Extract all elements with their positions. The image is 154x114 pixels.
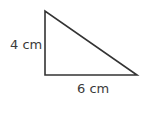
triangle-shape [0, 0, 154, 114]
triangle-diagram: 4 cm 6 cm [0, 0, 154, 114]
right-triangle [45, 11, 137, 75]
base-label: 6 cm [77, 82, 109, 95]
height-label: 4 cm [10, 38, 42, 51]
